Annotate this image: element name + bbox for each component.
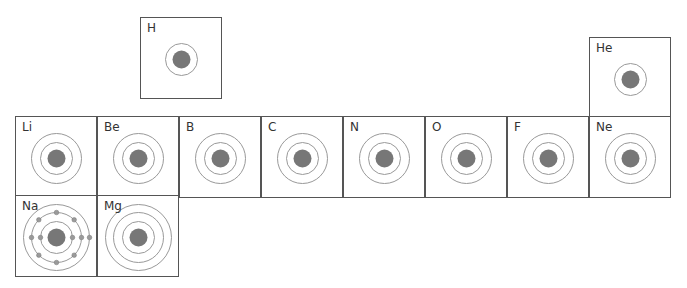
element-symbol: B [186, 120, 194, 134]
element-symbol: Mg [104, 199, 122, 213]
nucleus [622, 150, 640, 168]
element-symbol: F [514, 120, 521, 134]
element-cell-li: Li [15, 116, 97, 198]
element-symbol: Be [104, 120, 120, 134]
element-cell-mg: Mg [97, 195, 179, 277]
element-cell-be: Be [97, 116, 179, 198]
electron [37, 253, 42, 258]
electron [54, 260, 59, 265]
element-symbol: N [350, 120, 359, 134]
element-symbol: He [596, 41, 612, 55]
nucleus [622, 71, 640, 89]
nucleus [294, 150, 312, 168]
nucleus [540, 150, 558, 168]
element-symbol: C [268, 120, 276, 134]
element-cell-h: H [140, 17, 222, 99]
element-cell-he: He [589, 37, 671, 119]
element-cell-o: O [425, 116, 507, 198]
element-cell-ne: Ne [589, 116, 671, 198]
element-cell-n: N [343, 116, 425, 198]
electron [70, 235, 75, 240]
nucleus [376, 150, 394, 168]
electron [79, 235, 84, 240]
electron [87, 235, 92, 240]
electron [29, 235, 34, 240]
nucleus [48, 150, 66, 168]
element-cell-f: F [507, 116, 589, 198]
nucleus [130, 229, 148, 247]
element-symbol: Ne [596, 120, 612, 134]
electron [37, 218, 42, 223]
element-symbol: O [432, 120, 441, 134]
nucleus [48, 229, 66, 247]
electron [38, 235, 43, 240]
element-cell-b: B [179, 116, 261, 198]
nucleus [458, 150, 476, 168]
element-cell-na: Na [15, 195, 97, 277]
element-symbol: Li [22, 120, 32, 134]
electron [54, 210, 59, 215]
nucleus [173, 51, 191, 69]
element-cell-c: C [261, 116, 343, 198]
nucleus [212, 150, 230, 168]
nucleus [130, 150, 148, 168]
electron [72, 218, 77, 223]
element-symbol: Na [22, 199, 38, 213]
electron [72, 253, 77, 258]
element-symbol: H [147, 21, 156, 35]
